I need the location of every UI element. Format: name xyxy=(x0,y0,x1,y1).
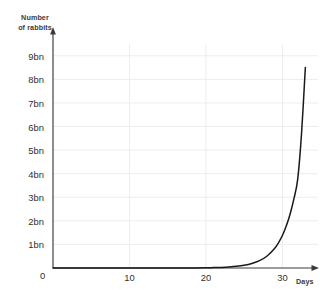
x-axis-tick-label: 20 xyxy=(201,272,211,283)
horizontal-gridlines xyxy=(53,56,318,245)
y-axis-tick-label: 4bn xyxy=(4,168,44,179)
y-axis-title: Numberof rabbits xyxy=(12,13,58,32)
y-axis-tick-label: 8bn xyxy=(4,74,44,85)
y-axis-tick-label: 1bn xyxy=(4,239,44,250)
chart-plot-area xyxy=(0,0,329,295)
data-series-line xyxy=(53,68,305,268)
x-axis-tick-label: 30 xyxy=(277,272,287,283)
x-axis-title: Days xyxy=(296,277,324,287)
y-axis-tick-label: 9bn xyxy=(4,50,44,61)
vertical-gridlines xyxy=(129,44,282,268)
y-axis-tick-label: 5bn xyxy=(4,145,44,156)
y-axis-tick-label: 7bn xyxy=(4,97,44,108)
origin-tick-label: 0 xyxy=(40,270,45,281)
y-axis-tick-label: 3bn xyxy=(4,192,44,203)
chart-container: Numberof rabbits Days 9bn8bn7bn6bn5bn4bn… xyxy=(0,0,329,295)
axis-lines xyxy=(50,27,319,271)
x-axis-tick-label: 10 xyxy=(124,272,134,283)
y-axis-tick-label: 2bn xyxy=(4,215,44,226)
y-axis-tick-label: 6bn xyxy=(4,121,44,132)
x-axis-arrowhead xyxy=(312,265,320,271)
